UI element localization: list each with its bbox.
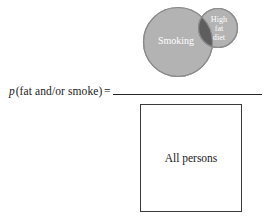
label-all-persons: All persons (141, 152, 241, 164)
equation-variable: p (9, 85, 16, 97)
label-high-fat-diet-line-3: diet (213, 33, 226, 42)
label-smoking: Smoking (158, 35, 194, 46)
denominator-all-persons-box: All persons (140, 104, 242, 212)
venn-diagram-svg: Smoking High fat diet (136, 0, 246, 90)
label-high-fat-diet-line-1: High (211, 15, 227, 24)
equation-argument: (fat and/or smoke) (16, 85, 103, 97)
probability-venn-figure: p(fat and/or smoke)= Smoking Hi (0, 0, 268, 224)
numerator-venn-diagram: Smoking High fat diet (136, 0, 246, 90)
fraction-bar (113, 94, 262, 95)
equation-label: p(fat and/or smoke)= (9, 85, 111, 98)
equation-operator: = (102, 85, 110, 97)
label-high-fat-diet-line-2: fat (215, 24, 224, 33)
